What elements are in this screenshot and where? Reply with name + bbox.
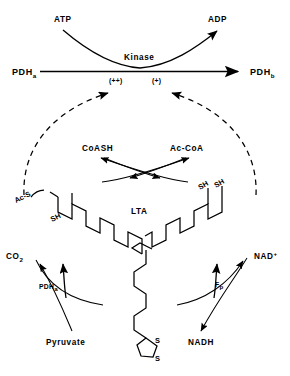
pdh-a-substrate-label: PDHa bbox=[12, 67, 37, 79]
adp-label: ADP bbox=[208, 15, 227, 24]
lta-carrier-group: LTA Ac-S SH SH SH S S bbox=[13, 177, 226, 363]
nad-plus-label: NAD+ bbox=[254, 250, 278, 261]
lta-left-acetyl-bond bbox=[50, 192, 58, 197]
kinase-reaction-group: PDHa PDHb Kinase ATP ADP (++) (+) bbox=[12, 15, 275, 85]
arrow-to-nad bbox=[177, 261, 243, 305]
ac-coa-label: Ac-CoA bbox=[170, 144, 204, 153]
acetyl-transfer-group: CoASH Ac-CoA bbox=[82, 144, 204, 182]
dithiolane-ring: S S bbox=[137, 336, 160, 363]
decarboxylation-group: CO2 PDHa Pyruvate bbox=[6, 252, 103, 347]
ring-sulfur-2-label: S bbox=[155, 354, 160, 363]
nadh-label: NADH bbox=[188, 338, 214, 347]
effector-strong-label: (++) bbox=[109, 77, 123, 85]
pdh-a-enzyme-label: PDHa bbox=[39, 283, 58, 292]
right-sh-label-2: SH bbox=[213, 177, 226, 190]
co2-label: CO2 bbox=[6, 252, 24, 263]
coash-label: CoASH bbox=[82, 144, 113, 153]
pdh-b-product-label: PDHb bbox=[250, 67, 275, 79]
lta-tail-chain bbox=[134, 250, 146, 338]
lta-right-chain bbox=[145, 197, 222, 247]
effector-weak-label: (+) bbox=[152, 77, 161, 85]
atp-to-adp-arc bbox=[63, 30, 217, 68]
biochemical-pathway-diagram: PDHa PDHb Kinase ATP ADP (++) (+) CoASH … bbox=[0, 0, 290, 376]
ring-sulfur-1-label: S bbox=[155, 336, 160, 345]
dithiolane-ring-path bbox=[137, 338, 157, 357]
lta-label: LTA bbox=[131, 207, 148, 216]
lta-left-chain bbox=[58, 197, 142, 254]
kinase-enzyme-label: Kinase bbox=[124, 53, 154, 62]
lta-left-acetyl-tail bbox=[31, 190, 44, 197]
diagram-canvas: PDHa PDHb Kinase ATP ADP (++) (+) CoASH … bbox=[0, 0, 290, 376]
reoxidation-group: NAD+ Fp NADH bbox=[177, 250, 278, 347]
pyruvate-label: Pyruvate bbox=[46, 338, 85, 347]
ac-s-label: Ac-S bbox=[13, 189, 32, 205]
atp-label: ATP bbox=[54, 15, 72, 24]
